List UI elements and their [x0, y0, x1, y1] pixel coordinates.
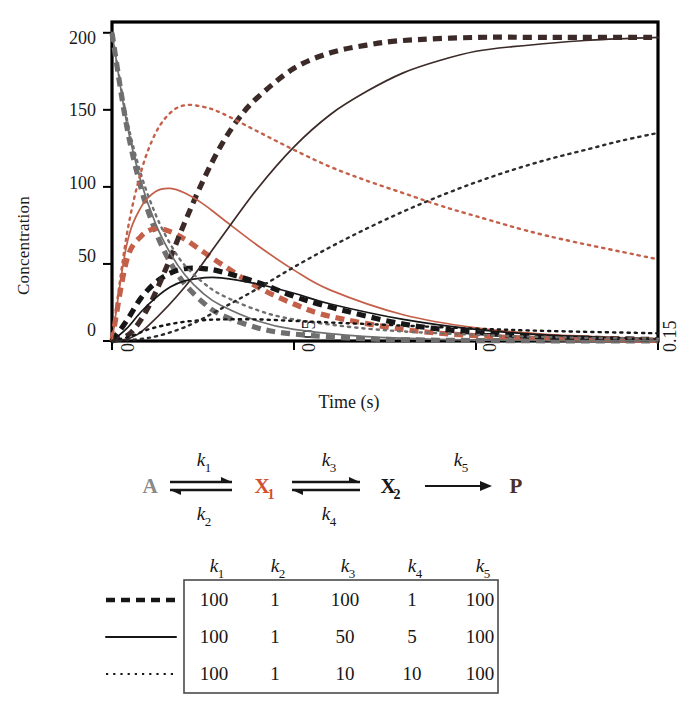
- curve-x1-set2: [112, 188, 658, 341]
- table-header-k4: k4: [408, 555, 423, 581]
- parameter-table-with-legend: k1k2k3k4k5100110011001001505100100110101…: [0, 548, 698, 698]
- table-cell: 100: [466, 626, 495, 647]
- table-cell: 1: [270, 626, 280, 647]
- reaction-scheme: Ak1k2X1k3k4X2k5P: [0, 432, 698, 540]
- table-header-k2: k2: [271, 555, 285, 581]
- table-header-k3: k3: [341, 555, 355, 581]
- svg-text:3: 3: [330, 460, 337, 475]
- table-cell: 10: [403, 663, 422, 684]
- svg-text:3: 3: [349, 566, 356, 581]
- species-A: A: [142, 474, 158, 498]
- species-P: P: [510, 474, 523, 498]
- svg-text:1: 1: [205, 460, 212, 475]
- table-cell: 100: [466, 663, 495, 684]
- svg-text:5: 5: [484, 566, 491, 581]
- table-header-k1: k1: [210, 555, 224, 581]
- svg-text:A: A: [142, 474, 158, 498]
- svg-text:5: 5: [462, 460, 469, 475]
- table-cell: 100: [200, 589, 229, 610]
- table-cell: 100: [200, 626, 229, 647]
- svg-text:1: 1: [268, 487, 275, 502]
- concentration-vs-time-chart: Concentration 200 150 100 50 0 0 0.05 0.…: [0, 0, 698, 430]
- rate-label-k1: k1: [197, 449, 211, 475]
- rate-label-k4: k4: [322, 503, 337, 529]
- species-X1: X1: [254, 474, 274, 502]
- table-cell: 5: [407, 626, 417, 647]
- x-axis-title: Time (s): [0, 392, 698, 413]
- table-cell: 1: [407, 589, 417, 610]
- table-cell: 100: [200, 663, 229, 684]
- svg-text:4: 4: [330, 514, 337, 529]
- table-cell: 50: [336, 626, 355, 647]
- parameter-table-svg: k1k2k3k4k5100110011001001505100100110101…: [0, 548, 698, 698]
- svg-text:2: 2: [279, 566, 286, 581]
- equilibrium-arrow-2: [292, 477, 360, 495]
- table-header-k5: k5: [476, 555, 490, 581]
- rate-label-k2: k2: [197, 503, 211, 529]
- plot-area: [0, 0, 698, 350]
- rate-label-k5: k5: [454, 449, 468, 475]
- svg-text:2: 2: [205, 514, 212, 529]
- svg-text:4: 4: [416, 566, 423, 581]
- curve-x1-set3: [112, 105, 658, 341]
- curve-a-set1: [112, 33, 658, 341]
- forward-arrow-3: [425, 481, 492, 491]
- species-X2: X2: [380, 474, 400, 502]
- table-cell: 100: [466, 589, 495, 610]
- svg-text:2: 2: [394, 487, 401, 502]
- svg-text:P: P: [510, 474, 523, 498]
- kinetics-figure: Concentration 200 150 100 50 0 0 0.05 0.…: [0, 0, 698, 708]
- table-cell: 10: [336, 663, 355, 684]
- table-cell: 1: [270, 589, 280, 610]
- svg-text:1: 1: [218, 566, 225, 581]
- rate-label-k3: k3: [322, 449, 336, 475]
- table-cell: 100: [331, 589, 360, 610]
- reaction-scheme-svg: Ak1k2X1k3k4X2k5P: [0, 432, 698, 540]
- table-cell: 1: [270, 663, 280, 684]
- equilibrium-arrow-1: [170, 477, 232, 495]
